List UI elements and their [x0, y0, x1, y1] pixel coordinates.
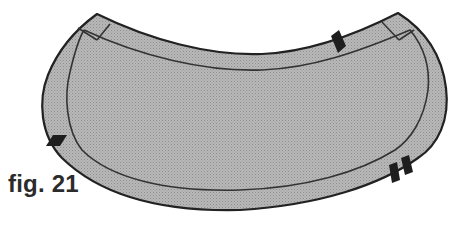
pattern-piece-outline — [42, 13, 447, 210]
figure-label: fig. 21 — [8, 170, 79, 198]
